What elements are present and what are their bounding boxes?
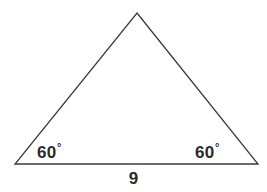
geometry-figure: 60° 60° 9 [0,0,267,192]
degree-symbol-left: ° [57,141,62,153]
triangle-diagram [0,0,267,192]
degree-symbol-right: ° [215,141,220,153]
angle-label-right: 60° [195,142,220,161]
angle-label-left-value: 60 [37,143,57,162]
angle-label-right-value: 60 [195,143,215,162]
angle-label-left: 60° [37,142,62,161]
base-length-label: 9 [0,170,267,187]
